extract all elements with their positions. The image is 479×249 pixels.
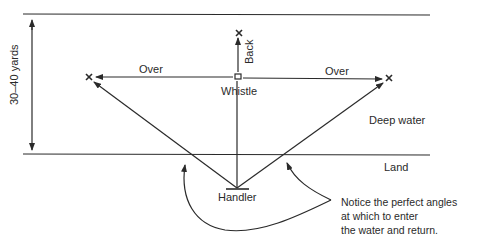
diagonal-right-arrow: [237, 83, 383, 188]
far-shore-line: [23, 14, 430, 15]
deep-water-label: Deep water: [369, 115, 425, 126]
diagonal-left-arrow: [94, 82, 237, 188]
note-line: at which to enter: [341, 209, 457, 223]
x-mark-back: [236, 30, 242, 36]
over-right-label: Over: [325, 66, 349, 77]
callout-curve: [184, 165, 331, 231]
note-line: Notice the perfect angles: [341, 195, 457, 209]
x-mark-left: [86, 74, 92, 80]
note-line: the water and return.: [341, 223, 457, 237]
back-label: Back: [244, 40, 255, 64]
shoreline: [23, 154, 430, 155]
handler-label: Handler: [218, 192, 257, 203]
whistle-position: [235, 74, 241, 79]
over-right-arrow: [243, 78, 382, 79]
distance-label: 30–40 yards: [9, 44, 20, 105]
angle-note: Notice the perfect angles at which to en…: [341, 195, 457, 237]
x-mark-right: [386, 75, 392, 81]
over-left-label: Over: [139, 64, 163, 75]
whistle-label: Whistle: [221, 86, 257, 97]
land-label: Land: [384, 162, 408, 173]
